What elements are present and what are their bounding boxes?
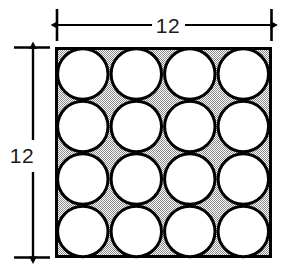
geometry-figure: 12 12 [0,0,290,271]
circle-r2c3 [165,101,215,151]
circle-r1c3 [165,49,215,99]
circle-r1c2 [111,49,161,99]
circle-r3c4 [218,154,268,204]
circle-r2c4 [218,101,268,151]
circle-r1c1 [58,49,108,99]
circle-r1c4 [218,49,268,99]
circle-r4c2 [111,206,161,256]
figure-canvas: 12 12 [0,0,290,271]
circle-r4c1 [58,206,108,256]
circle-r4c3 [165,206,215,256]
circle-r3c3 [165,154,215,204]
circle-r3c1 [58,154,108,204]
circle-r3c2 [111,154,161,204]
circle-r4c4 [218,206,268,256]
circle-r2c2 [111,101,161,151]
dimension-label-top: 12 [156,14,180,37]
dimension-label-left: 12 [10,144,34,167]
dimension-top-width: 12 [57,9,272,41]
circle-r2c1 [58,101,108,151]
dimension-left-height: 12 [10,48,50,258]
